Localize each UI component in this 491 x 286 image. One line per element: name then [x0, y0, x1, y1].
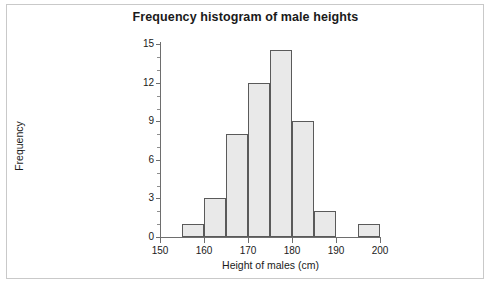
chart-page: Frequency histogram of male heights 0 3 … [0, 0, 491, 286]
y-axis-line [160, 42, 161, 238]
x-tickmark-170 [248, 238, 249, 243]
histogram-plot-area: 0 3 6 9 12 15 [0, 0, 491, 286]
x-axis-title: Height of males (cm) [160, 259, 381, 271]
y-tick-label-15: 15 [132, 39, 154, 49]
histogram-bar [270, 50, 292, 237]
x-tick-label-200: 200 [360, 245, 400, 256]
x-tick-label-180: 180 [272, 245, 312, 256]
y-minor-tick-2 [157, 211, 160, 212]
y-tickmark-3 [156, 198, 160, 199]
y-tick-label-3: 3 [132, 193, 154, 203]
y-tick-9: 9 [128, 116, 154, 126]
x-tickmark-180 [292, 238, 293, 243]
histogram-bar [248, 83, 270, 237]
y-tick-label-12: 12 [132, 78, 154, 88]
y-tick-12: 12 [128, 78, 154, 88]
histogram-bar [292, 121, 314, 237]
x-tick-label-190: 190 [316, 245, 356, 256]
y-tick-15: 15 [128, 39, 154, 49]
y-minor-tick-1 [157, 224, 160, 225]
x-tick-label-150: 150 [140, 245, 180, 256]
y-tickmark-15 [156, 44, 160, 45]
y-minor-tick-4 [157, 186, 160, 187]
y-minor-tick-10 [157, 109, 160, 110]
y-minor-tick-7 [157, 147, 160, 148]
y-tickmark-9 [156, 121, 160, 122]
y-axis-title: Frequency [13, 96, 25, 196]
x-tickmark-200 [380, 238, 381, 243]
x-tickmark-150 [160, 238, 161, 243]
y-minor-tick-13 [157, 70, 160, 71]
x-tickmark-190 [336, 238, 337, 243]
x-tick-label-160: 160 [184, 245, 224, 256]
y-tick-0: 0 [128, 232, 154, 242]
histogram-bar [204, 198, 226, 237]
histogram-bar [226, 134, 248, 237]
y-tickmark-12 [156, 83, 160, 84]
x-tick-label-170: 170 [228, 245, 268, 256]
x-tickmark-160 [204, 238, 205, 243]
y-minor-tick-5 [157, 173, 160, 174]
y-tick-label-0: 0 [132, 232, 154, 242]
x-axis-line [160, 237, 381, 238]
y-tick-6: 6 [128, 155, 154, 165]
y-tick-label-6: 6 [132, 155, 154, 165]
y-tickmark-6 [156, 160, 160, 161]
y-tick-label-9: 9 [132, 116, 154, 126]
y-minor-tick-14 [157, 57, 160, 58]
y-minor-tick-11 [157, 96, 160, 97]
y-tick-3: 3 [128, 193, 154, 203]
histogram-bar [358, 224, 380, 237]
histogram-bar [314, 211, 336, 237]
histogram-bar [182, 224, 204, 237]
y-minor-tick-8 [157, 134, 160, 135]
